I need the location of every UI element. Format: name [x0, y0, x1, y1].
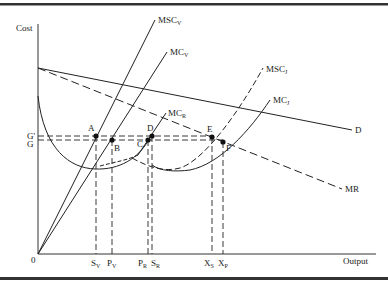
drop-lines	[96, 136, 223, 254]
demand-line	[38, 68, 352, 130]
point-a	[93, 133, 98, 138]
demand-label: D	[355, 125, 362, 135]
mr-label: MR	[345, 184, 359, 194]
point-b-label: B	[114, 143, 120, 153]
msc-j-label: MSCJ	[266, 64, 288, 75]
x-axis-label: Output	[343, 256, 369, 266]
point-c-label: C	[137, 139, 143, 149]
point-b	[109, 137, 114, 142]
tick-s-v: SV	[91, 258, 101, 269]
dashed-connector-curve	[100, 155, 138, 166]
tick-x-s: XS	[204, 258, 214, 269]
y-axis-label: Cost	[16, 23, 33, 33]
point-c	[145, 137, 150, 142]
cost-output-diagram: Cost Output 0 D MR MSCV MCV MCR MSCJ MCJ…	[0, 0, 388, 287]
point-e-label: E	[207, 124, 213, 134]
tick-p-v: PV	[107, 258, 117, 269]
tick-x-p: XP	[218, 258, 229, 269]
point-d	[149, 133, 154, 138]
marginal-revenue-line	[38, 68, 342, 189]
origin-label: 0	[31, 255, 36, 265]
point-e	[209, 134, 214, 139]
g-label: G	[27, 139, 34, 149]
point-d-label: D	[147, 123, 154, 133]
top-border	[0, 3, 388, 6]
point-a-label: A	[88, 123, 95, 133]
mc-j-label: MCJ	[273, 95, 290, 106]
bottom-border	[0, 277, 388, 280]
mc-v-label: MCV	[170, 47, 189, 58]
point-f	[220, 139, 225, 144]
point-f-label: F	[226, 143, 231, 153]
mc-r-label: MCR	[168, 108, 186, 119]
tick-s-r: SR	[151, 258, 160, 269]
msc-v-label: MSCV	[158, 15, 182, 26]
tick-p-r: PR	[138, 258, 147, 269]
